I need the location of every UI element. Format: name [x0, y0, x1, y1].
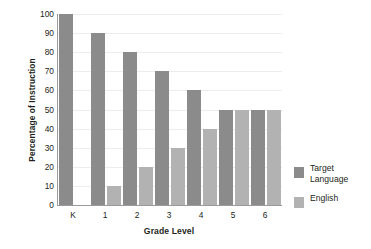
bar	[203, 129, 218, 205]
bar-chart: Percentage of Instruction 10090807060504…	[0, 0, 371, 249]
y-axis-tick-labels: 1009080706050403020100	[30, 8, 54, 212]
x-axis-tick-label: 5	[217, 209, 249, 221]
bar	[235, 110, 250, 206]
bar	[267, 110, 282, 206]
legend-item: Target Language	[294, 163, 370, 184]
y-axis-tick-label: 90	[30, 28, 54, 38]
legend-label: Target Language	[310, 163, 348, 184]
x-axis-tick-label: 3	[153, 209, 185, 221]
y-axis-tick-label: 20	[30, 162, 54, 172]
bar-group	[91, 14, 121, 205]
bar	[251, 110, 266, 206]
x-axis-tick-labels: K123456	[57, 209, 281, 223]
legend-swatch	[294, 167, 304, 178]
legend-swatch	[294, 197, 304, 208]
y-axis-tick-label: 50	[30, 105, 54, 115]
bar	[139, 167, 154, 205]
y-axis-tick-label: 30	[30, 143, 54, 153]
bar-group	[187, 14, 217, 205]
x-axis-title: Grade Level	[57, 226, 281, 236]
bar	[171, 148, 186, 205]
bar	[155, 71, 170, 205]
bar	[187, 90, 202, 205]
x-axis-tick-label: K	[57, 209, 89, 221]
bar	[219, 110, 234, 206]
bar-group	[123, 14, 153, 205]
bars-layer	[58, 14, 282, 205]
y-axis-tick-label: 10	[30, 181, 54, 191]
y-axis-tick-label: 0	[30, 200, 54, 210]
y-axis-tick-label: 100	[30, 9, 54, 19]
bar-group	[59, 14, 89, 205]
y-axis-tick-label: 40	[30, 124, 54, 134]
y-axis-tick-label: 70	[30, 66, 54, 76]
y-axis-tick-label: 60	[30, 85, 54, 95]
chart-legend: Target LanguageEnglish	[294, 163, 370, 217]
x-axis-tick-label: 4	[185, 209, 217, 221]
x-axis-tick-label: 6	[249, 209, 281, 221]
bar	[91, 33, 106, 205]
plot-area	[57, 14, 282, 206]
y-axis-tick-label: 80	[30, 47, 54, 57]
bar-group	[155, 14, 185, 205]
bar	[107, 186, 122, 205]
x-axis-tick-label: 2	[121, 209, 153, 221]
bar-group	[251, 14, 281, 205]
x-axis-tick-label: 1	[89, 209, 121, 221]
bar	[59, 14, 74, 205]
bar-group	[219, 14, 249, 205]
bar	[123, 52, 138, 205]
legend-label: English	[310, 193, 338, 204]
legend-item: English	[294, 193, 370, 208]
